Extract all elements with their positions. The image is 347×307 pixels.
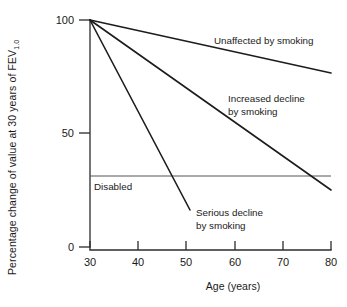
x-tick-label-30: 30 — [84, 256, 96, 268]
y-axis-title-subscript: 1.0 — [13, 40, 20, 50]
x-tick-label-60: 60 — [229, 256, 241, 268]
y-axis-group: 100 50 0 — [56, 14, 90, 253]
y-axis-title: Percentage change of value at 30 years o… — [6, 40, 20, 275]
annotation-unaffected: Unaffected by smoking — [214, 35, 313, 46]
y-tick-label-100: 100 — [56, 14, 74, 26]
annotation-increased-line1: Increased decline — [228, 93, 305, 104]
y-axis-title-main: Percentage change of value at 30 years o… — [6, 50, 18, 275]
y-axis-title-group: Percentage change of value at 30 years o… — [6, 40, 20, 275]
x-tick-label-80: 80 — [325, 256, 337, 268]
x-tick-label-70: 70 — [277, 256, 289, 268]
annotation-disabled: Disabled — [94, 181, 132, 192]
annotation-increased-line2: by smoking — [228, 106, 278, 117]
series-line-unaffected — [90, 20, 331, 73]
annotation-serious-line2: by smoking — [196, 220, 246, 231]
y-tick-label-0: 0 — [68, 241, 74, 253]
chart-svg: 100 50 0 Percentage change of value at 3… — [0, 0, 347, 307]
x-axis-title: Age (years) — [206, 280, 260, 292]
y-tick-label-50: 50 — [62, 127, 74, 139]
annotation-serious-line1: Serious decline — [196, 207, 264, 218]
x-tick-label-40: 40 — [132, 256, 144, 268]
x-axis-group: 30 40 50 60 70 80 Age (years) — [84, 241, 337, 292]
x-tick-label-50: 50 — [180, 256, 192, 268]
fev-decline-chart: 100 50 0 Percentage change of value at 3… — [0, 0, 347, 307]
